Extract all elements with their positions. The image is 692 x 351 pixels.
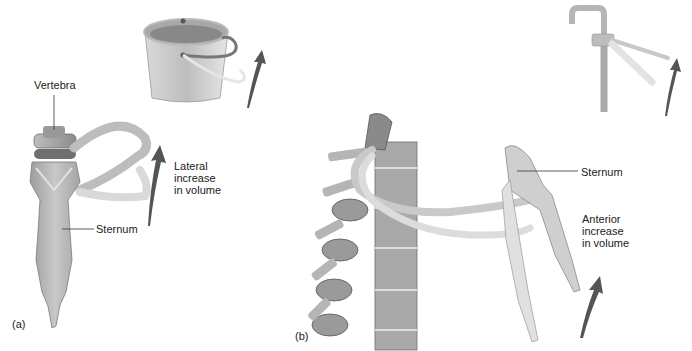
lateral-line-1: Lateral bbox=[174, 160, 264, 172]
bucket-handle-icon bbox=[144, 19, 245, 103]
anterior-increase-label: Anterior increase in volume bbox=[582, 213, 672, 249]
pump-motion-arrow bbox=[665, 58, 681, 116]
lateral-motion-arrow bbox=[148, 145, 166, 226]
panel-b-letter: (b) bbox=[295, 330, 308, 342]
lateral-line-3: in volume bbox=[174, 184, 264, 196]
sternum-a-label: Sternum bbox=[96, 223, 138, 235]
lateral-increase-label: Lateral increase in volume bbox=[174, 160, 264, 196]
anterior-line-1: Anterior bbox=[582, 213, 672, 225]
anterior-line-2: increase bbox=[582, 225, 672, 237]
lateral-line-2: increase bbox=[174, 172, 264, 184]
spine-b bbox=[307, 114, 417, 350]
bucket-motion-arrow bbox=[247, 50, 266, 108]
pump-handle-icon bbox=[572, 8, 668, 112]
vertebra-label: Vertebra bbox=[34, 79, 76, 91]
sternum-b-label: Sternum bbox=[581, 166, 623, 178]
panel-a-letter: (a) bbox=[12, 318, 25, 330]
vertebra-a bbox=[34, 126, 76, 159]
anterior-line-3: in volume bbox=[582, 237, 672, 249]
anterior-motion-arrow bbox=[580, 276, 603, 338]
sternum-b bbox=[502, 146, 580, 342]
rib-a bbox=[74, 126, 147, 197]
sternum-a bbox=[30, 162, 80, 328]
